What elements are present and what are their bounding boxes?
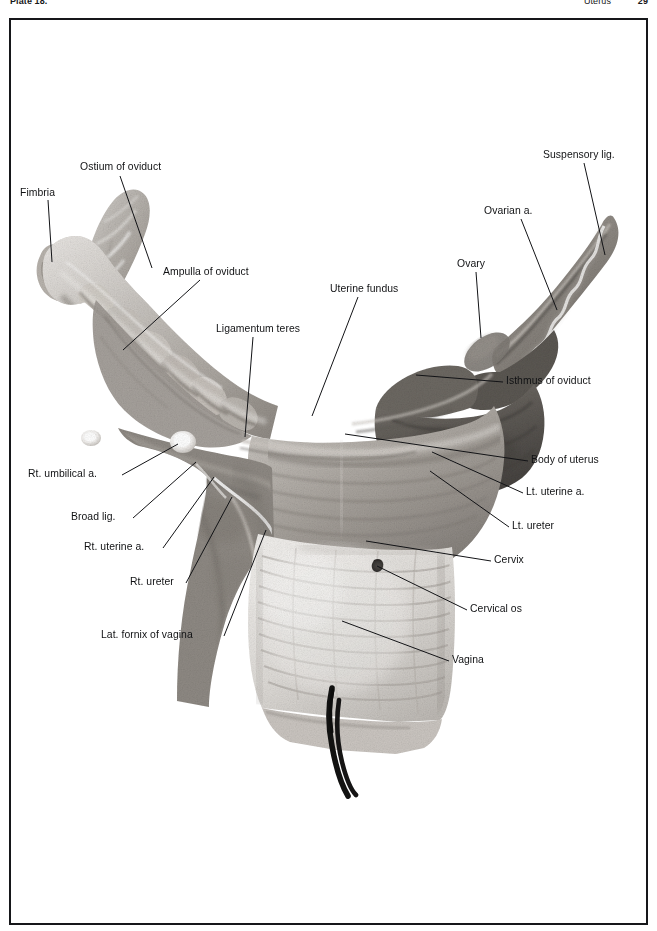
label-ligamentum-teres: Ligamentum teres [216,324,300,335]
label-uterine-fundus: Uterine fundus [330,284,398,295]
label-cervix: Cervix [494,555,524,566]
label-fimbria: Fimbria [20,188,55,199]
running-head-plate-number: Plate 18. [10,0,47,6]
label-ovarian-a: Ovarian a. [484,206,532,217]
label-ostium-of-oviduct: Ostium of oviduct [80,162,161,173]
label-cervical-os: Cervical os [470,604,522,615]
plate-page: Plate 18. Uterus 29 [0,0,657,931]
label-lat-fornix-of-vagina: Lat. fornix of vagina [101,630,193,641]
label-ampulla-of-oviduct: Ampulla of oviduct [163,267,249,278]
label-rt-ureter: Rt. ureter [130,577,174,588]
label-suspensory-lig: Suspensory lig. [543,150,615,161]
running-head-title: Uterus [584,0,611,6]
running-head-page-number: 29 [638,0,648,6]
label-vagina: Vagina [452,655,484,666]
label-rt-umbilical-a: Rt. umbilical a. [28,469,97,480]
label-lt-uterine-a: Lt. uterine a. [526,487,584,498]
label-body-of-uterus: Body of uterus [531,455,599,466]
label-ovary: Ovary [457,259,485,270]
label-lt-ureter: Lt. ureter [512,521,554,532]
label-broad-lig: Broad lig. [71,512,115,523]
label-rt-uterine-a: Rt. uterine a. [84,542,144,553]
label-isthmus-of-oviduct: Isthmus of oviduct [506,376,591,387]
